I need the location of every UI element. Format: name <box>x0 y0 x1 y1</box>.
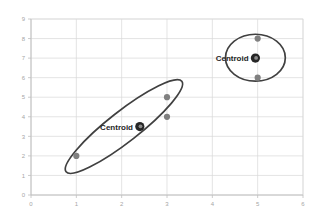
scatter-chart: 01234567890123456CentroidCentroid <box>0 0 320 218</box>
x-axis-tick-label: 3 <box>165 201 169 207</box>
y-axis-tick-label: 7 <box>22 55 26 61</box>
cluster-1-centroid-label: Centroid <box>100 123 133 132</box>
x-axis-tick-label: 5 <box>256 201 260 207</box>
x-axis-tick-label: 0 <box>29 201 33 207</box>
cluster-2-centroid-highlight <box>254 56 258 60</box>
data-point <box>164 114 170 120</box>
y-axis-tick-label: 6 <box>22 75 26 81</box>
y-axis-tick-label: 2 <box>22 153 26 159</box>
x-axis-tick-label: 1 <box>75 201 79 207</box>
x-axis-tick-label: 6 <box>301 201 305 207</box>
x-axis-tick-label: 2 <box>120 201 124 207</box>
y-axis-tick-label: 4 <box>22 114 26 120</box>
data-point <box>73 153 79 159</box>
y-axis-tick-label: 5 <box>22 94 26 100</box>
data-point <box>164 94 170 100</box>
cluster-1-centroid-highlight <box>139 124 143 128</box>
y-axis-tick-label: 8 <box>22 36 26 42</box>
data-point <box>255 35 261 41</box>
data-point <box>255 75 261 81</box>
y-axis-tick-label: 9 <box>22 16 26 22</box>
cluster-2-centroid-label: Centroid <box>216 54 249 63</box>
x-axis-tick-label: 4 <box>211 201 215 207</box>
y-axis-tick-label: 3 <box>22 134 26 140</box>
y-axis-tick-label: 1 <box>22 173 26 179</box>
plot-canvas: 01234567890123456CentroidCentroid <box>0 0 320 218</box>
y-axis-tick-label: 0 <box>22 192 26 198</box>
